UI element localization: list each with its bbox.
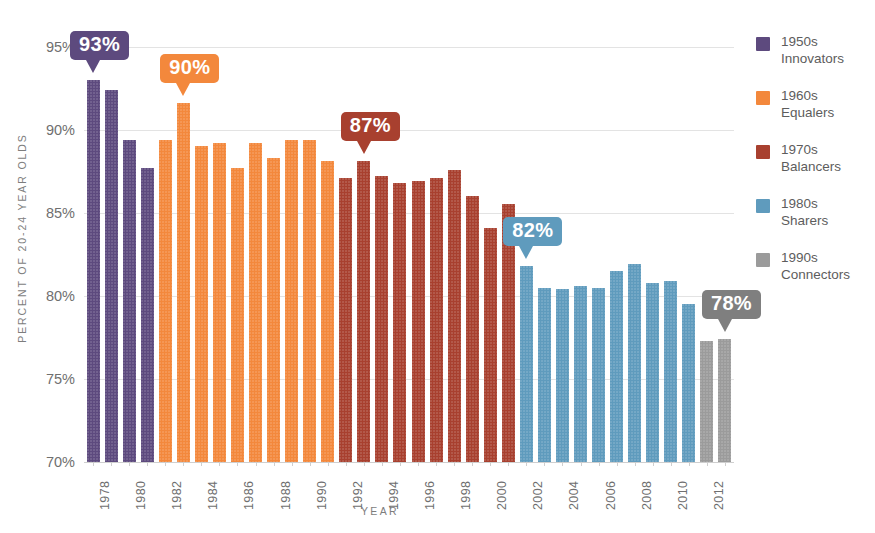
x-tick-mark (508, 462, 509, 466)
x-tick-mark (382, 462, 383, 466)
callout-label: 87% (341, 112, 400, 141)
value-callout: 82% (503, 217, 562, 246)
callout-tail-icon (86, 60, 100, 73)
bar-texture (213, 143, 226, 462)
value-callout: 90% (160, 54, 219, 83)
value-callout: 93% (70, 31, 129, 60)
bar[interactable] (159, 140, 172, 462)
bar[interactable] (123, 140, 136, 462)
bar[interactable] (87, 80, 100, 462)
legend-name: Balancers (781, 159, 874, 176)
bar[interactable] (538, 288, 551, 462)
bar[interactable] (430, 178, 443, 462)
x-tick-mark (544, 462, 545, 466)
bar[interactable] (520, 266, 533, 462)
legend-decade: 1950s (781, 34, 874, 51)
x-tick-mark (635, 462, 636, 466)
legend-decade: 1980s (781, 196, 874, 213)
legend-decade: 1990s (781, 250, 874, 267)
bar[interactable] (664, 281, 677, 462)
bar[interactable] (231, 168, 244, 462)
value-callout: 78% (702, 290, 761, 319)
y-tick-label: 80% (46, 288, 75, 304)
value-callout: 87% (341, 112, 400, 141)
bar[interactable] (556, 289, 569, 462)
bar-texture (231, 168, 244, 462)
legend: 1950sInnovators1960sEqualers1970sBalance… (756, 34, 874, 304)
x-tick-mark (400, 462, 401, 466)
bar[interactable] (466, 196, 479, 462)
bar[interactable] (718, 339, 731, 462)
bar-texture (159, 140, 172, 462)
callout-tail-icon (176, 83, 190, 96)
bar-texture (484, 228, 497, 462)
bar[interactable] (285, 140, 298, 462)
bar[interactable] (177, 103, 190, 462)
legend-item[interactable]: 1960sEqualers (756, 88, 874, 121)
x-tick-mark (599, 462, 600, 466)
bar[interactable] (592, 288, 605, 462)
legend-item[interactable]: 1990sConnectors (756, 250, 874, 283)
legend-name: Sharers (781, 213, 874, 230)
legend-name: Equalers (781, 105, 874, 122)
x-tick-mark (364, 462, 365, 466)
bar-texture (357, 161, 370, 462)
bar[interactable] (393, 183, 406, 462)
bar[interactable] (339, 178, 352, 462)
callout-label: 90% (160, 54, 219, 83)
x-tick-mark (201, 462, 202, 466)
x-axis-title: YEAR (0, 505, 760, 517)
bar[interactable] (303, 140, 316, 462)
bar[interactable] (448, 170, 461, 462)
bar-texture (123, 140, 136, 462)
x-tick-mark (617, 462, 618, 466)
bar[interactable] (412, 181, 425, 462)
bar-texture (610, 271, 623, 462)
y-axis-title: PERCENT OF 20-24 YEAR OLDS (16, 88, 28, 388)
bar-texture (321, 161, 334, 462)
bar[interactable] (105, 90, 118, 462)
bar-texture (177, 103, 190, 462)
bar[interactable] (700, 341, 713, 462)
legend-item[interactable]: 1970sBalancers (756, 142, 874, 175)
bar[interactable] (213, 143, 226, 462)
x-tick-mark (165, 462, 166, 466)
bar-texture (339, 178, 352, 462)
x-tick-mark (562, 462, 563, 466)
bar[interactable] (195, 146, 208, 462)
bar[interactable] (249, 143, 262, 462)
bar[interactable] (141, 168, 154, 462)
x-tick-mark (129, 462, 130, 466)
callout-label: 78% (702, 290, 761, 319)
bar[interactable] (610, 271, 623, 462)
bar-texture (718, 339, 731, 462)
y-tick-label: 85% (46, 205, 75, 221)
bar-texture (393, 183, 406, 462)
bar[interactable] (321, 161, 334, 462)
x-tick-mark (526, 462, 527, 466)
y-tick-label: 75% (46, 371, 75, 387)
legend-item[interactable]: 1950sInnovators (756, 34, 874, 67)
bar[interactable] (267, 158, 280, 462)
bar[interactable] (357, 161, 370, 462)
x-tick-mark (274, 462, 275, 466)
bar[interactable] (682, 304, 695, 462)
bar-texture (249, 143, 262, 462)
x-tick-mark (653, 462, 654, 466)
bar[interactable] (484, 228, 497, 462)
x-tick-mark (454, 462, 455, 466)
legend-swatch-icon (756, 145, 770, 159)
bar-texture (303, 140, 316, 462)
legend-decade: 1960s (781, 88, 874, 105)
bar-texture (412, 181, 425, 462)
callout-tail-icon (718, 319, 732, 332)
bar[interactable] (628, 264, 641, 462)
x-tick-mark (292, 462, 293, 466)
x-tick-mark (183, 462, 184, 466)
bar-texture (682, 304, 695, 462)
bar[interactable] (375, 176, 388, 462)
bar[interactable] (646, 283, 659, 462)
x-tick-mark (328, 462, 329, 466)
legend-item[interactable]: 1980sSharers (756, 196, 874, 229)
bar[interactable] (574, 286, 587, 462)
